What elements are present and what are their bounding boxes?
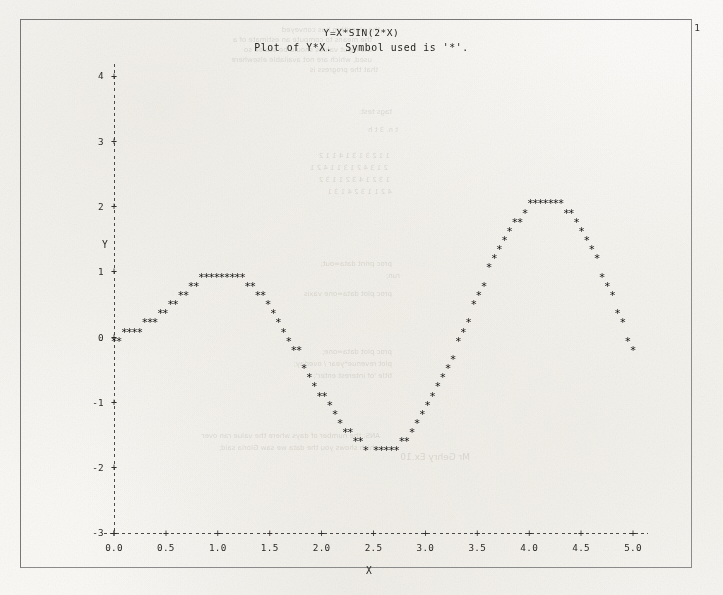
page-border [20, 19, 692, 568]
plot-subtitle: Plot of Y*X. Symbol used is '*'. [0, 42, 723, 53]
plot-title: Y=X*SIN(2*X) [0, 27, 723, 38]
page-number: 1 [694, 22, 700, 33]
